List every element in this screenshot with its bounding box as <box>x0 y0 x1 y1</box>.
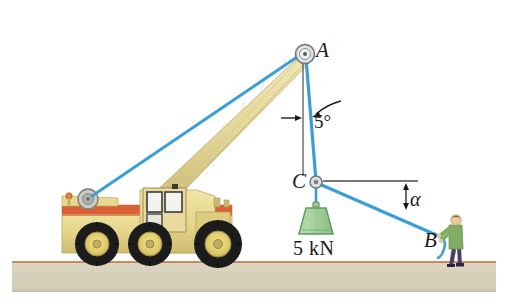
ring-icon <box>310 176 322 188</box>
wheel-front <box>194 220 242 268</box>
label-point-c: C <box>292 171 306 192</box>
angle-alpha-annotation <box>403 183 409 210</box>
crane-diagram-svg <box>0 0 508 302</box>
worker-icon <box>437 215 464 267</box>
label-angle-5deg: 5° <box>314 112 331 131</box>
mobile-crane <box>62 56 310 268</box>
wheel-rear-2 <box>128 222 172 266</box>
ground <box>12 262 496 292</box>
crane-wheels <box>75 220 242 268</box>
weight-block-icon <box>299 202 333 235</box>
wheel-rear-1 <box>75 222 119 266</box>
figure-canvas: A C B α 5° 5 kN <box>0 0 508 302</box>
label-point-b: B <box>424 230 437 251</box>
cable-c-to-b <box>317 183 441 237</box>
winch-drum-icon <box>78 189 98 209</box>
label-angle-alpha: α <box>410 189 421 209</box>
label-point-a: A <box>316 40 329 61</box>
pulley-icon <box>296 45 315 64</box>
label-load-weight: 5 kN <box>293 238 334 258</box>
